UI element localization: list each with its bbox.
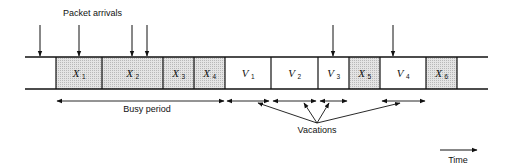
box-subscript: 3	[337, 73, 341, 80]
vacation-pointer-arrow-icon	[317, 103, 329, 123]
packet-arrivals-label: Packet arrivals	[63, 8, 123, 18]
box-label: X	[72, 67, 81, 79]
box-subscript: 4	[406, 73, 410, 80]
box-subscript: 5	[368, 73, 372, 80]
box-subscript: 1	[82, 73, 86, 80]
box-subscript: 6	[445, 73, 449, 80]
box-label: X	[202, 67, 211, 79]
box-subscript: 1	[251, 73, 255, 80]
box-label: X	[171, 67, 180, 79]
vacation-pointer-arrow-icon	[258, 103, 317, 123]
box-v1: V1	[225, 57, 271, 89]
box-label: X	[357, 67, 366, 79]
box-x2: X2	[102, 57, 163, 89]
box-v2: V2	[271, 57, 318, 89]
box-x3: X3	[163, 57, 194, 89]
busy-period-label: Busy period	[123, 104, 171, 114]
time-label: Time	[448, 155, 468, 165]
box-v4: V4	[380, 57, 426, 89]
box-subscript: 2	[298, 73, 302, 80]
box-x6: X6	[426, 57, 457, 89]
box-subscript: 3	[182, 73, 186, 80]
vacation-pointer-arrow-icon	[317, 103, 400, 123]
box-label: X	[434, 67, 443, 79]
box-subscript: 2	[136, 73, 140, 80]
box-x4: X4	[194, 57, 225, 89]
box-x5: X5	[349, 57, 380, 89]
packet-arrival-arrows	[40, 25, 393, 56]
box-v3: V3	[318, 57, 349, 89]
vacation-model-diagram: X1X2X3X4V1V2V3X5V4X6 Packet arrivals Bus…	[0, 0, 513, 167]
box-x1: X1	[56, 57, 102, 89]
box-subscript: 4	[213, 73, 217, 80]
box-label: X	[125, 67, 134, 79]
vacation-pointer-arrow-icon	[304, 103, 317, 123]
vacation-pointers	[258, 103, 400, 123]
vacations-label: Vacations	[298, 125, 337, 135]
service-and-vacation-boxes: X1X2X3X4V1V2V3X5V4X6	[56, 57, 457, 89]
